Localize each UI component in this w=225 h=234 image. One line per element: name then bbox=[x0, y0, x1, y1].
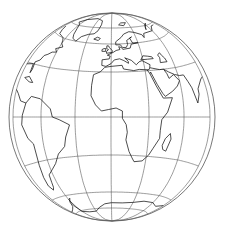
globe-canvas bbox=[0, 0, 225, 234]
globe-map: Globe bbox=[0, 0, 225, 234]
